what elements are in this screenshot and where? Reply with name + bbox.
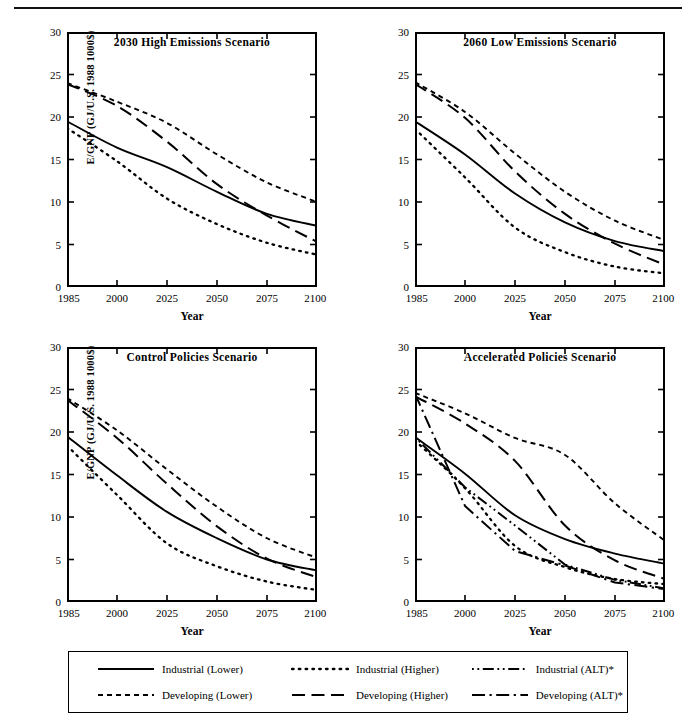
plot-area: 051015202530198520002025205020752100 <box>415 347 665 602</box>
legend-line-sample <box>471 689 529 701</box>
plot-area: E/GNP (GJ/U.S. 1988 1000$)05101520253019… <box>67 347 317 602</box>
figure-panel-grid: 2030 High Emissions ScenarioE/GNP (GJ/U.… <box>0 14 696 644</box>
legend-row: Developing (Lower)Developing (Higher)Dev… <box>69 683 627 707</box>
y-tick-label: 10 <box>50 196 61 208</box>
y-tick-label: 30 <box>50 341 61 353</box>
legend-line-sample <box>97 663 155 675</box>
y-tick-label: 20 <box>50 111 61 123</box>
x-tick-label: 2050 <box>554 292 576 304</box>
series-line <box>67 128 317 255</box>
legend-line-sample <box>291 663 349 675</box>
plot-area: 051015202530198520002025205020752100 <box>415 32 665 287</box>
x-tick-label: 2025 <box>156 292 178 304</box>
header-rule <box>14 7 682 9</box>
x-tick-label: 2000 <box>454 607 476 619</box>
series-line <box>415 394 665 590</box>
x-axis-label: Year <box>67 310 317 322</box>
legend-line-sample <box>471 663 529 675</box>
y-tick-label: 5 <box>56 239 62 251</box>
legend-label: Developing (Lower) <box>162 689 252 701</box>
y-tick-label: 10 <box>50 511 61 523</box>
x-tick-label: 1985 <box>406 607 428 619</box>
x-tick-label: 2050 <box>206 292 228 304</box>
x-axis-label: Year <box>415 625 665 637</box>
x-axis-label: Year <box>415 310 665 322</box>
panel-title: Accelerated Policies Scenario <box>415 351 665 363</box>
x-tick-label: 2075 <box>604 607 626 619</box>
legend-label: Developing (Higher) <box>356 689 448 701</box>
legend-item[interactable]: Industrial (Higher) <box>291 657 471 681</box>
legend-item[interactable]: Developing (Lower) <box>69 683 291 707</box>
x-tick-label: 2050 <box>206 607 228 619</box>
x-tick-label: 2000 <box>106 607 128 619</box>
panel-title: Control Policies Scenario <box>67 351 317 363</box>
series-canvas <box>415 347 665 602</box>
y-tick-label: 20 <box>398 426 409 438</box>
y-tick-label: 25 <box>398 69 409 81</box>
legend-item[interactable]: Industrial (Lower) <box>69 657 291 681</box>
chart-panel-4: Accelerated Policies Scenario05101520253… <box>348 329 696 644</box>
x-tick-label: 2075 <box>604 292 626 304</box>
y-tick-label: 20 <box>50 426 61 438</box>
panel-title: 2030 High Emissions Scenario <box>67 36 317 48</box>
y-tick-label: 15 <box>398 469 409 481</box>
x-tick-label: 2100 <box>304 292 326 304</box>
plot-area: E/GNP (GJ/U.S. 1988 1000$)05101520253019… <box>67 32 317 287</box>
y-tick-label: 30 <box>50 26 61 38</box>
y-tick-label: 15 <box>50 469 61 481</box>
panel-title: 2060 Low Emissions Scenario <box>415 36 665 48</box>
legend-item[interactable]: Developing (Higher) <box>291 683 471 707</box>
x-tick-label: 2000 <box>106 292 128 304</box>
legend-item[interactable]: Developing (ALT)* <box>471 683 627 707</box>
x-tick-label: 2075 <box>256 292 278 304</box>
legend-label: Industrial (Higher) <box>356 663 439 675</box>
series-canvas <box>67 347 317 602</box>
figure-legend: Industrial (Lower)Industrial (Higher)Ind… <box>68 651 628 713</box>
y-tick-label: 25 <box>50 384 61 396</box>
y-tick-label: 5 <box>404 554 410 566</box>
legend-line-sample <box>97 689 155 701</box>
x-tick-label: 1985 <box>406 292 428 304</box>
y-tick-label: 5 <box>404 239 410 251</box>
x-tick-label: 2075 <box>256 607 278 619</box>
series-line <box>67 436 317 570</box>
legend-item[interactable]: Industrial (ALT)* <box>471 657 627 681</box>
x-axis-label: Year <box>67 625 317 637</box>
y-tick-label: 5 <box>56 554 62 566</box>
y-tick-label: 30 <box>398 26 409 38</box>
series-line <box>415 121 665 251</box>
series-line <box>67 121 317 226</box>
y-tick-label: 20 <box>398 111 409 123</box>
x-tick-label: 2100 <box>652 292 674 304</box>
chart-panel-1: 2030 High Emissions ScenarioE/GNP (GJ/U.… <box>0 14 348 329</box>
chart-panel-2: 2060 Low Emissions Scenario0510152025301… <box>348 14 696 329</box>
legend-label: Developing (ALT)* <box>536 689 623 701</box>
legend-label: Industrial (ALT)* <box>536 663 614 675</box>
series-line <box>415 129 665 274</box>
x-tick-label: 1985 <box>58 292 80 304</box>
series-line <box>67 446 317 590</box>
legend-line-sample <box>291 689 349 701</box>
x-tick-label: 2100 <box>652 607 674 619</box>
series-line <box>415 396 665 579</box>
y-tick-label: 10 <box>398 511 409 523</box>
series-canvas <box>415 32 665 287</box>
x-tick-label: 2000 <box>454 292 476 304</box>
chart-panel-3: Control Policies ScenarioE/GNP (GJ/U.S. … <box>0 329 348 644</box>
x-tick-label: 1985 <box>58 607 80 619</box>
y-tick-label: 15 <box>398 154 409 166</box>
y-tick-label: 10 <box>398 196 409 208</box>
y-tick-label: 25 <box>398 384 409 396</box>
x-tick-label: 2025 <box>504 292 526 304</box>
series-line <box>67 398 317 558</box>
legend-label: Industrial (Lower) <box>162 663 243 675</box>
y-tick-label: 30 <box>398 341 409 353</box>
y-tick-label: 25 <box>50 69 61 81</box>
x-tick-label: 2050 <box>554 607 576 619</box>
x-tick-label: 2025 <box>156 607 178 619</box>
series-line <box>415 82 665 240</box>
x-tick-label: 2025 <box>504 607 526 619</box>
legend-row: Industrial (Lower)Industrial (Higher)Ind… <box>69 657 627 681</box>
y-tick-label: 15 <box>50 154 61 166</box>
x-tick-label: 2100 <box>304 607 326 619</box>
